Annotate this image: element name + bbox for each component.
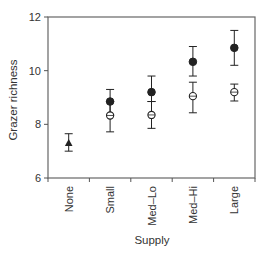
data-point-open: [189, 82, 197, 113]
triangle-marker: [65, 139, 73, 146]
filled-circle-marker: [231, 44, 239, 52]
x-tick-label: Med–Hi: [187, 186, 199, 224]
y-tick-label: 12: [29, 11, 41, 23]
x-tick-label: None: [63, 186, 75, 212]
y-tick-label: 6: [35, 172, 41, 184]
x-tick-label: Med–Lo: [146, 186, 158, 226]
data-point-filled: [230, 30, 238, 65]
data-point-open: [230, 84, 238, 101]
data-point-filled: [189, 47, 197, 77]
data-point-control: [65, 134, 73, 151]
y-tick-label: 10: [29, 65, 41, 77]
x-tick-label: Large: [228, 186, 240, 214]
x-axis: NoneSmallMed–LoMed–HiLarge: [48, 178, 255, 226]
data-point-open: [106, 102, 114, 132]
chart: 681012 NoneSmallMed–LoMed–HiLarge Grazer…: [0, 0, 269, 254]
filled-circle-marker: [148, 88, 156, 96]
filled-circle-marker: [189, 58, 197, 66]
x-axis-title: Supply: [134, 234, 169, 246]
y-tick-label: 8: [35, 118, 41, 130]
y-axis: 681012: [29, 11, 48, 184]
y-axis-title: Grazer richness: [7, 59, 19, 140]
x-tick-label: Small: [104, 186, 116, 214]
data-point-filled: [148, 76, 156, 101]
data-point-open: [148, 102, 156, 129]
data-points: [65, 30, 239, 151]
